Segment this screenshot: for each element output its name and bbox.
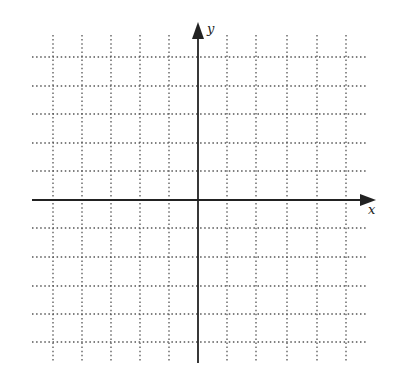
vertical-grid-lines (53, 35, 346, 363)
y-axis-label: y (206, 21, 215, 36)
x-axis-label: x (368, 202, 376, 217)
y-axis-arrow-icon (192, 22, 204, 39)
coordinate-grid-diagram: x y (0, 0, 400, 381)
axes (32, 22, 376, 363)
